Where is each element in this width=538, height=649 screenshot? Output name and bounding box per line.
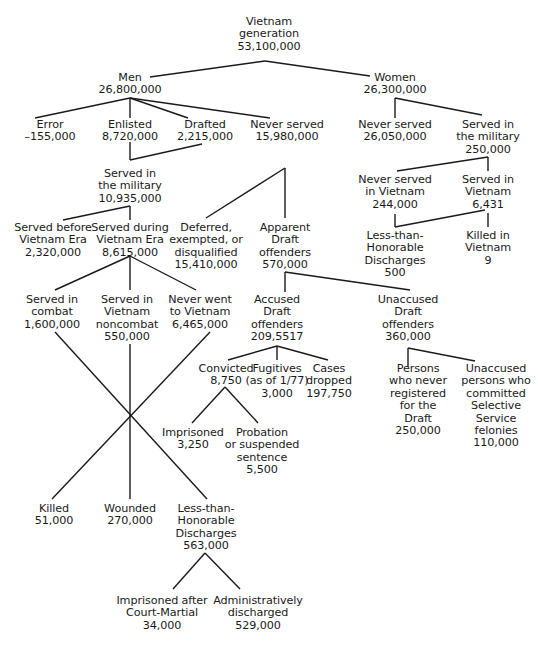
node-value: 250,000 (456, 144, 519, 156)
node-value: 360,000 (378, 331, 438, 343)
node-label: discharged (213, 607, 303, 619)
node-value: 110,000 (461, 437, 531, 449)
node-label: Draft (251, 306, 304, 318)
node-served-combat: Served in combat 1,600,000 (24, 294, 80, 331)
node-value: –155,000 (24, 131, 75, 143)
node-enlisted: Enlisted 8,720,000 (102, 119, 158, 144)
node-value: 209,5517 (251, 331, 304, 343)
node-men-less-than-honorable: Less-than- Honorable Discharges 563,000 (176, 503, 237, 553)
node-women-served-vietnam: Served in Vietnam 6,431 (462, 174, 514, 211)
node-value: 5,500 (225, 464, 300, 476)
node-label: combat (24, 306, 80, 318)
node-probation: Probation or suspended sentence 5,500 (225, 427, 300, 477)
node-label: Vietnam Era (14, 234, 91, 246)
node-label: Draft (378, 306, 438, 318)
node-apparent-draft-offenders: Apparent Draft offenders 570,000 (259, 222, 311, 272)
node-value: 197,750 (306, 388, 352, 400)
node-drafted: Drafted 2,215,000 (177, 119, 233, 144)
node-unaccused-draft-offenders: Unaccused Draft offenders 360,000 (378, 294, 438, 344)
node-label: Honorable (365, 242, 426, 254)
node-label: who never (389, 375, 447, 387)
node-value: 10,935,000 (98, 193, 161, 205)
node-women-never-served: Never served 26,050,000 (358, 119, 432, 144)
node-men-never-served: Never served 15,980,000 (250, 119, 324, 144)
node-label: dropped (306, 375, 352, 387)
node-value: 563,000 (176, 540, 237, 552)
node-label: Draft (259, 234, 311, 246)
node-fugitives: Fugitives (as of 1/77) 3,000 (245, 363, 308, 400)
node-women-served-military: Served in the military 250,000 (456, 119, 519, 156)
node-served-noncombat: Served in Vietnam noncombat 550,000 (96, 294, 158, 344)
node-label: Honorable (176, 515, 237, 527)
node-wounded: Wounded 270,000 (104, 503, 156, 528)
node-vietnam-generation: Vietnam generation 53,100,000 (237, 16, 300, 53)
node-cases-dropped: Cases dropped 197,750 (306, 363, 352, 400)
node-value: 15,410,000 (169, 259, 243, 271)
node-value: 26,050,000 (358, 131, 432, 143)
node-label: Vietnam (465, 242, 511, 254)
tree-diagram: Vietnam generation 53,100,000 Men 26,800… (0, 0, 538, 649)
node-men-served-military: Served in the military 10,935,000 (98, 168, 161, 205)
node-women-less-than-honorable: Less-than- Honorable Discharges 500 (365, 230, 426, 280)
node-never-went-vietnam: Never went to Vietnam 6,465,000 (168, 294, 231, 331)
node-value: 550,000 (96, 331, 158, 343)
node-label: Vietnam Era (91, 234, 169, 246)
node-value: 3,000 (245, 388, 308, 400)
node-value: 53,100,000 (237, 41, 300, 53)
node-value: 570,000 (259, 259, 311, 271)
node-value: 8,615,000 (91, 247, 169, 259)
node-women: Women 26,300,000 (363, 72, 426, 97)
node-served-during-era: Served during Vietnam Era 8,615,000 (91, 222, 169, 259)
node-label: Court-Martial (116, 607, 207, 619)
node-label: the military (456, 131, 519, 143)
node-value: 3,250 (162, 439, 224, 451)
node-label: in Vietnam (358, 186, 432, 198)
node-value: 34,000 (116, 620, 207, 632)
node-value: 1,600,000 (24, 319, 80, 331)
node-never-registered: Persons who never registered for the Dra… (389, 363, 447, 437)
node-value: 8,720,000 (102, 131, 158, 143)
node-unaccused-felonies: Unaccused persons who committed Selectiv… (461, 363, 531, 450)
node-killed: Killed 51,000 (35, 503, 74, 528)
node-label: for the (389, 400, 447, 412)
node-served-before-era: Served before Vietnam Era 2,320,000 (14, 222, 91, 259)
node-value: 6,465,000 (168, 319, 231, 331)
node-label: persons who (461, 375, 531, 387)
node-women-never-vietnam: Never served in Vietnam 244,000 (358, 174, 432, 211)
node-label: Vietnam (462, 186, 514, 198)
node-value: 26,800,000 (98, 84, 161, 96)
node-label: the military (98, 180, 161, 192)
node-value: 500 (365, 267, 426, 279)
node-label: Vietnam (96, 306, 158, 318)
node-label: (as of 1/77) (245, 375, 308, 387)
node-value: 15,980,000 (250, 131, 324, 143)
node-label: Selective (461, 400, 531, 412)
node-value: 244,000 (358, 199, 432, 211)
node-value: 26,300,000 (363, 84, 426, 96)
node-value: 2,215,000 (177, 131, 233, 143)
node-error: Error –155,000 (24, 119, 75, 144)
node-label: exempted, or (169, 234, 243, 246)
node-value: 2,320,000 (14, 247, 91, 259)
node-value: 270,000 (104, 515, 156, 527)
node-label: generation (237, 28, 300, 40)
node-administratively-discharged: Administratively discharged 529,000 (213, 595, 303, 632)
node-accused-draft-offenders: Accused Draft offenders 209,5517 (251, 294, 304, 344)
node-men: Men 26,800,000 (98, 72, 161, 97)
node-deferred: Deferred, exempted, or disqualified 15,4… (169, 222, 243, 272)
node-label: or suspended (225, 439, 300, 451)
node-value: 51,000 (35, 515, 74, 527)
node-imprisoned: Imprisoned 3,250 (162, 427, 224, 452)
node-value: 250,000 (389, 425, 447, 437)
node-label: to Vietnam (168, 306, 231, 318)
node-women-killed-vietnam: Killed in Vietnam 9 (465, 230, 511, 267)
node-imprisoned-court-martial: Imprisoned after Court-Martial 34,000 (116, 595, 207, 632)
node-value: 529,000 (213, 620, 303, 632)
node-value: 9 (465, 255, 511, 267)
node-value: 6,431 (462, 199, 514, 211)
